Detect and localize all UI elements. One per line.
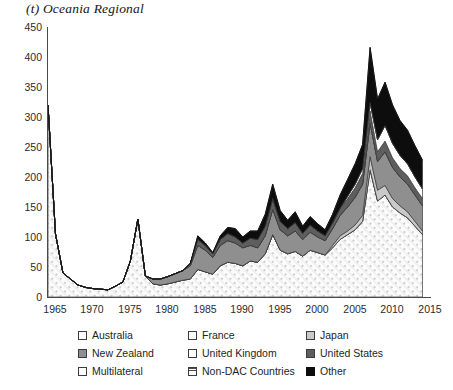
legend-item-non-dac-countries: Non-DAC Countries	[188, 366, 306, 377]
legend-label: Other	[320, 366, 346, 377]
legend-item-japan: Japan	[306, 330, 416, 341]
chart-legend: Australia France Japan New Zealand Unite…	[78, 326, 428, 380]
multilateral-swatch-icon	[78, 367, 87, 376]
france-swatch-icon	[188, 331, 197, 340]
x-axis-line	[47, 297, 431, 298]
x-axis-tick: 1990	[230, 303, 253, 315]
x-axis-tick: 1975	[118, 303, 141, 315]
page-title: (t) Oceania Regional	[26, 1, 144, 17]
x-axis-tick: 2000	[305, 303, 328, 315]
legend-label: Australia	[92, 330, 133, 341]
legend-label: United Kingdom	[202, 348, 277, 359]
x-axis-tick: 1995	[268, 303, 291, 315]
united-kingdom-swatch-icon	[188, 349, 197, 358]
legend-label: United States	[320, 348, 383, 359]
x-axis-tick: 2015	[418, 303, 441, 315]
other-swatch-icon	[306, 367, 315, 376]
legend-label: New Zealand	[92, 348, 154, 359]
stacked-area-chart	[48, 27, 430, 297]
plot-area	[48, 27, 430, 297]
x-axis-tick: 2005	[343, 303, 366, 315]
x-axis-tick: 1985	[193, 303, 216, 315]
legend-item-france: France	[188, 330, 306, 341]
y-axis-tick: 300	[24, 112, 42, 122]
legend-item-other: Other	[306, 366, 416, 377]
x-axis-tick: 2010	[380, 303, 403, 315]
legend-label: Multilateral	[92, 366, 143, 377]
y-axis-tick: 250	[24, 142, 42, 152]
x-axis-tick: 1980	[155, 303, 178, 315]
y-axis-tick: 200	[24, 172, 42, 182]
japan-swatch-icon	[306, 331, 315, 340]
legend-item-new-zealand: New Zealand	[78, 348, 188, 359]
x-axis-tick: 1970	[80, 303, 103, 315]
y-axis-tick: 350	[24, 82, 42, 92]
legend-label: Non-DAC Countries	[202, 366, 295, 377]
non-dac-swatch-icon	[188, 367, 197, 376]
legend-item-united-states: United States	[306, 348, 416, 359]
new-zealand-swatch-icon	[78, 349, 87, 358]
legend-item-multilateral: Multilateral	[78, 366, 188, 377]
y-axis-tick: 400	[24, 52, 42, 62]
legend-label: France	[202, 330, 235, 341]
y-axis-tick: 50	[30, 262, 42, 272]
legend-item-australia: Australia	[78, 330, 188, 341]
y-axis-tick: 150	[24, 202, 42, 212]
y-axis-tick: 450	[24, 22, 42, 32]
legend-item-united-kingdom: United Kingdom	[188, 348, 306, 359]
australia-swatch-icon	[78, 331, 87, 340]
legend-label: Japan	[320, 330, 349, 341]
y-axis-tick: 100	[24, 232, 42, 242]
chart-container: (t) Oceania Regional 0 50 100 150 200 25…	[0, 0, 453, 390]
y-axis-tick: 0	[36, 292, 42, 302]
x-axis-tick: 1965	[43, 303, 66, 315]
united-states-swatch-icon	[306, 349, 315, 358]
